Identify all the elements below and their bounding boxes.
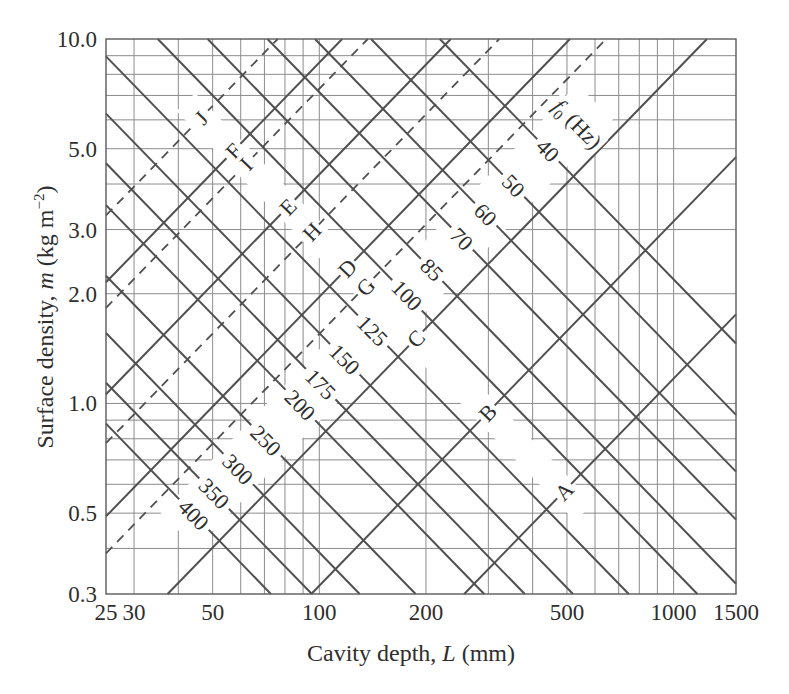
y-tick-label-1.0: 1.0: [68, 391, 97, 416]
x-tick-label-30: 30: [123, 600, 146, 625]
x-axis-unit: (mm): [456, 640, 515, 666]
resonance-line-85hz: [208, 39, 736, 584]
chart-canvas: 4050607085100125150175200250300350400ABC…: [0, 0, 789, 694]
y-axis-unit-close: ): [32, 185, 58, 193]
y-axis-unit: (kg m: [32, 209, 58, 272]
x-tick-label-50: 50: [201, 600, 224, 625]
resonance-line-100hz: [158, 39, 698, 594]
panel-line-C: [168, 39, 707, 594]
panel-line-A: [464, 314, 736, 594]
panel-line-G: [106, 39, 606, 553]
x-tick-label-100: 100: [302, 600, 337, 625]
panel-line-F: [106, 39, 342, 282]
x-tick-label-1500: 1500: [713, 600, 759, 625]
x-tick-label-200: 200: [409, 600, 444, 625]
x-axis-variable: L: [441, 640, 455, 666]
x-axis-title: Cavity depth, L (mm): [307, 640, 515, 666]
y-tick-label-2.0: 2.0: [68, 282, 97, 307]
x-tick-label-25: 25: [95, 600, 118, 625]
y-tick-label-5.0: 5.0: [68, 137, 97, 162]
x-tick-label-1000: 1000: [651, 600, 697, 625]
y-axis-title: Surface density, m (kg m−2): [31, 185, 58, 448]
y-axis-variable: m: [32, 272, 58, 289]
resonance-line-60hz: [315, 39, 736, 472]
y-tick-label-0.3: 0.3: [68, 582, 97, 607]
y-axis-title-text: Surface density,: [32, 289, 58, 448]
y-tick-label-10.0: 10.0: [57, 27, 97, 52]
chart-figure: 4050607085100125150175200250300350400ABC…: [0, 0, 789, 694]
y-tick-label-3.0: 3.0: [68, 218, 97, 243]
panel-line-J: [106, 39, 278, 215]
x-tick-label-500: 500: [550, 600, 585, 625]
panel-line-I: [106, 39, 368, 308]
y-axis-unit-exponent: −2: [31, 193, 47, 209]
panel-line-B: [311, 157, 736, 594]
x-axis-title-text: Cavity depth,: [307, 640, 442, 666]
y-tick-label-0.5: 0.5: [68, 501, 97, 526]
